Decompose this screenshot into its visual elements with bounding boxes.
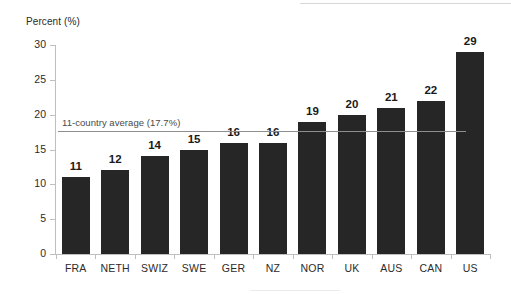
y-tick-label-10: 10: [22, 177, 46, 189]
bar-value-fra: 11: [56, 160, 96, 172]
y-tick-label-5: 5: [22, 212, 46, 224]
bar-can: [417, 101, 445, 254]
page-edge-artifact-top: [300, 3, 511, 4]
x-tick-0: [56, 254, 57, 259]
y-tick-label-0: 0: [22, 247, 46, 259]
y-tick-30: [50, 45, 55, 46]
bar-value-neth: 12: [95, 153, 135, 165]
x-tick-6: [293, 254, 294, 259]
average-reference-line: [58, 131, 466, 133]
y-tick-0: [50, 254, 55, 255]
y-tick-20: [50, 115, 55, 116]
y-tick-15: [50, 150, 55, 151]
y-tick-label-20: 20: [22, 108, 46, 120]
bar-aus: [377, 108, 405, 254]
y-axis-title: Percent (%): [26, 16, 80, 27]
x-tick-3: [174, 254, 175, 259]
bar-value-nor: 19: [292, 105, 332, 117]
bar-nz: [259, 143, 287, 254]
bar-value-swe: 15: [174, 133, 214, 145]
plot-area: [56, 45, 490, 254]
bar-value-swiz: 14: [135, 139, 175, 151]
bar-swiz: [141, 156, 169, 254]
page-edge-artifact-bottom: [250, 290, 340, 291]
bar-value-aus: 21: [371, 91, 411, 103]
x-tick-10: [451, 254, 452, 259]
bar-value-can: 22: [411, 84, 451, 96]
bar-neth: [101, 170, 129, 254]
bar-us: [456, 52, 484, 254]
y-tick-5: [50, 219, 55, 220]
x-tick-8: [372, 254, 373, 259]
y-tick-label-30: 30: [22, 38, 46, 50]
category-label-us: US: [445, 262, 495, 274]
x-tick-1: [95, 254, 96, 259]
bar-fra: [62, 177, 90, 254]
bar-value-us: 29: [450, 35, 490, 47]
x-axis-line: [55, 254, 490, 255]
bar-ger: [220, 143, 248, 254]
y-tick-label-15: 15: [22, 143, 46, 155]
x-tick-7: [332, 254, 333, 259]
y-tick-25: [50, 80, 55, 81]
x-tick-9: [411, 254, 412, 259]
bar-nor: [298, 122, 326, 254]
x-tick-4: [214, 254, 215, 259]
y-tick-label-25: 25: [22, 73, 46, 85]
chart-screenshot: Percent (%) 051015202530 111214151616192…: [0, 0, 511, 294]
average-line-label: 11-country average (17.7%): [62, 117, 180, 128]
x-tick-5: [253, 254, 254, 259]
y-tick-10: [50, 184, 55, 185]
bar-uk: [338, 115, 366, 254]
x-tick-11: [490, 254, 491, 259]
bar-swe: [180, 150, 208, 255]
x-tick-2: [135, 254, 136, 259]
bar-value-uk: 20: [332, 98, 372, 110]
